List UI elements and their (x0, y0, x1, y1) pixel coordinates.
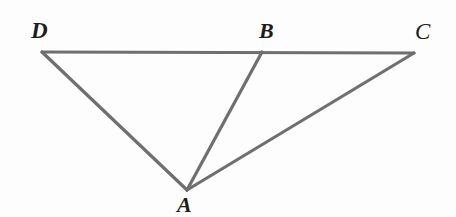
vertex-label-b: B (259, 20, 274, 42)
vertex-label-d: D (31, 19, 48, 42)
vertex-label-a: A (177, 194, 192, 216)
segment-d-to-a (42, 52, 187, 190)
geometry-canvas (0, 0, 456, 217)
geometry-figure: D B C A (0, 0, 456, 217)
segments-group (42, 52, 414, 190)
vertex-label-c: C (415, 20, 430, 43)
segment-b-to-a (187, 52, 262, 190)
segment-d-to-c (42, 52, 414, 53)
segment-a-to-c (187, 53, 414, 190)
